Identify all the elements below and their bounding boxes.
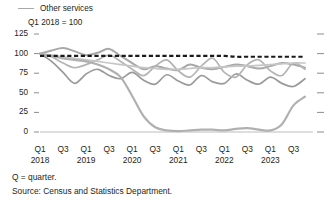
- plot-area: [0, 28, 335, 146]
- x-tick-year-label: 2020: [117, 155, 147, 165]
- y-tick-label: 100: [4, 49, 28, 58]
- x-tick-quarter-label: Q1: [258, 144, 282, 154]
- x-tick-quarter-label: Q1: [166, 144, 190, 154]
- x-tick-year-label: 2023: [255, 155, 285, 165]
- x-tick-quarter-label: Q3: [189, 144, 213, 154]
- x-axis-tick-labels: Q1Q3Q1Q3Q1Q3Q1Q3Q1Q3Q1Q32018201920202021…: [0, 144, 335, 172]
- legend-item-label: Other services: [40, 4, 93, 14]
- line-swatch-icon: [18, 8, 34, 9]
- x-tick-year-label: 2022: [209, 155, 239, 165]
- y-tick-label: 25: [4, 107, 28, 116]
- y-tick-label: 75: [4, 68, 28, 77]
- footnote-quarter: Q = quarter.: [12, 172, 56, 183]
- x-tick-year-label: 2019: [71, 155, 101, 165]
- line-chart-svg: [0, 28, 335, 146]
- x-tick-quarter-label: Q1: [212, 144, 236, 154]
- y-tick-label: 0: [4, 127, 28, 136]
- y-tick-label: 50: [4, 88, 28, 97]
- y-tick-label: 125: [4, 29, 28, 38]
- x-tick-quarter-label: Q3: [235, 144, 259, 154]
- x-tick-quarter-label: Q1: [120, 144, 144, 154]
- chart-figure: Other services Q1 2018 = 100 02550751001…: [0, 0, 335, 203]
- series-line: [40, 56, 305, 57]
- chart-legend: Other services: [18, 2, 93, 15]
- x-tick-quarter-label: Q1: [28, 144, 52, 154]
- x-tick-quarter-label: Q3: [51, 144, 75, 154]
- x-tick-quarter-label: Q1: [74, 144, 98, 154]
- x-tick-quarter-label: Q3: [143, 144, 167, 154]
- x-tick-year-label: 2021: [163, 155, 193, 165]
- x-tick-quarter-label: Q3: [281, 144, 305, 154]
- axis-note: Q1 2018 = 100: [28, 18, 82, 28]
- footnote-source: Source: Census and Statistics Department…: [12, 186, 172, 197]
- x-tick-year-label: 2018: [25, 155, 55, 165]
- x-tick-quarter-label: Q3: [97, 144, 121, 154]
